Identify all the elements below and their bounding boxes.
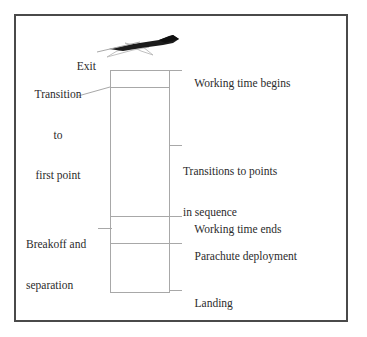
label-parachute-deployment: Parachute deployment [183,236,297,277]
timeline-divider-working-ends [110,216,170,217]
leader-transitions-sequence [170,145,182,146]
label-breakoff-separation-line2: separation [26,279,110,293]
airplane-silhouette-icon [103,33,185,61]
leader-working-ends [170,216,182,217]
skydiving-timeline-figure: Exit Transition to first point Breakoff … [0,0,367,337]
label-transition-first-point: Transition to first point [17,61,99,210]
timeline-column [110,70,170,293]
label-landing-text: Landing [195,297,233,309]
timeline-divider-first-point [110,87,170,88]
label-breakoff-separation: Breakoff and separation [26,211,110,319]
label-working-time-ends-text: Working time ends [194,223,281,235]
label-landing: Landing [183,283,233,324]
label-working-time-begins-text: Working time begins [194,77,290,89]
label-breakoff-separation-line1: Breakoff and [26,238,110,252]
leader-working-begins [170,70,182,71]
leader-landing [170,290,182,291]
label-transition-first-point-line2: to [17,129,99,143]
label-transitions-in-sequence-line1: Transitions to points [183,165,277,179]
label-transition-first-point-line3: first point [17,169,99,183]
timeline-divider-parachute [110,243,170,244]
leader-parachute [170,243,182,244]
label-working-time-begins: Working time begins [183,63,290,104]
label-parachute-deployment-text: Parachute deployment [195,250,298,262]
label-transition-first-point-line1: Transition [17,88,99,102]
